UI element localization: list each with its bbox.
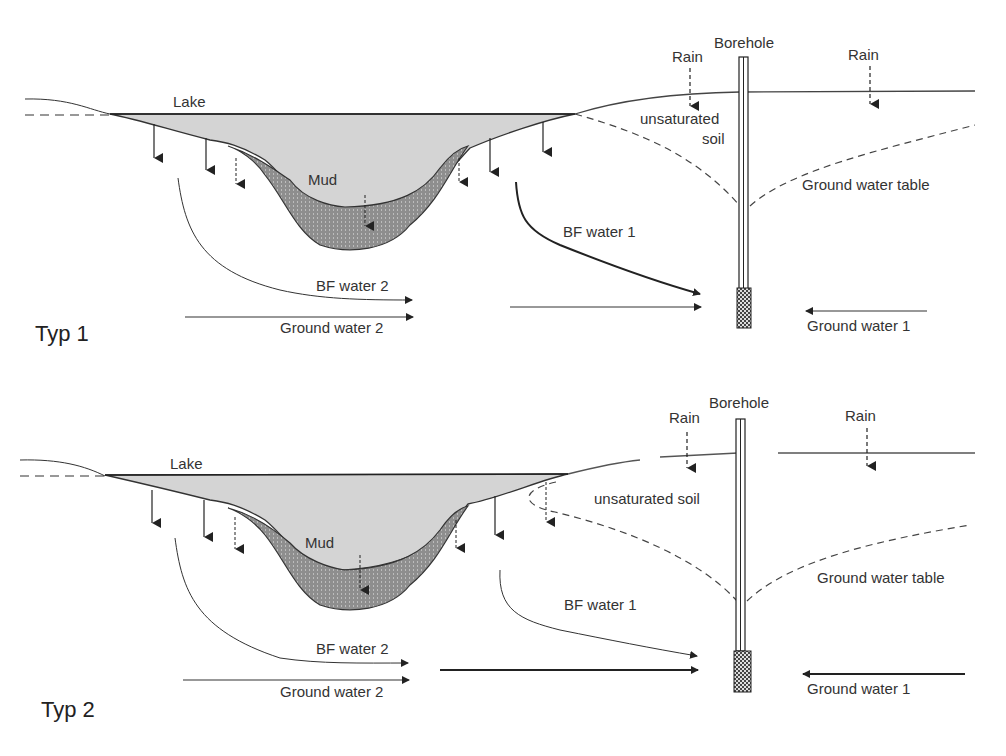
label-lake: Lake — [170, 455, 203, 472]
land-surface — [568, 453, 975, 474]
lake-body — [105, 474, 568, 570]
label-ground-water-table: Ground water table — [817, 569, 945, 586]
ground-water-table-line — [747, 525, 970, 601]
label-borehole: Borehole — [714, 34, 774, 51]
panel-title-typ2: Typ 2 — [41, 697, 95, 722]
label-unsaturated: unsaturated soil — [594, 490, 700, 507]
left-shore — [20, 460, 105, 476]
label-ground-water-1: Ground water 1 — [807, 680, 910, 697]
borehole-screen — [737, 288, 751, 328]
bf-water-1-flow — [500, 570, 697, 656]
label-ground-water-2: Ground water 2 — [280, 683, 383, 700]
label-borehole: Borehole — [709, 394, 769, 411]
label-rain-right: Rain — [848, 46, 879, 63]
borehole-screen — [734, 651, 751, 692]
panel-title-typ1: Typ 1 — [35, 321, 89, 346]
label-bf-water-2: BF water 2 — [316, 640, 389, 657]
ground-water-table-line — [575, 114, 740, 206]
label-unsaturated: unsaturated — [640, 110, 719, 127]
land-surface — [575, 91, 975, 114]
label-rain-left: Rain — [672, 48, 703, 65]
bank-filtration-diagram: Lake Mud Borehole Rain Rain unsaturated … — [0, 0, 1006, 756]
borehole — [737, 57, 751, 328]
panel-typ1: Lake Mud Borehole Rain Rain unsaturated … — [25, 34, 975, 346]
label-ground-water-1: Ground water 1 — [807, 317, 910, 334]
label-ground-water-table: Ground water table — [802, 176, 930, 193]
label-lake: Lake — [173, 93, 206, 110]
label-mud: Mud — [308, 171, 337, 188]
label-bf-water-1: BF water 1 — [564, 596, 637, 613]
label-ground-water-2: Ground water 2 — [280, 319, 383, 336]
panel-typ2: Lake Mud Borehole Rain Rain unsaturated … — [20, 394, 975, 722]
ground-water-table-line — [750, 125, 975, 206]
label-bf-water-2: BF water 2 — [316, 277, 389, 294]
left-shore — [25, 99, 110, 114]
borehole — [734, 419, 751, 692]
lake-body — [110, 114, 575, 212]
label-rain-left: Rain — [669, 409, 700, 426]
label-bf-water-1: BF water 1 — [563, 223, 636, 240]
label-rain-right: Rain — [845, 407, 876, 424]
label-mud: Mud — [305, 534, 334, 551]
label-soil: soil — [702, 130, 725, 147]
